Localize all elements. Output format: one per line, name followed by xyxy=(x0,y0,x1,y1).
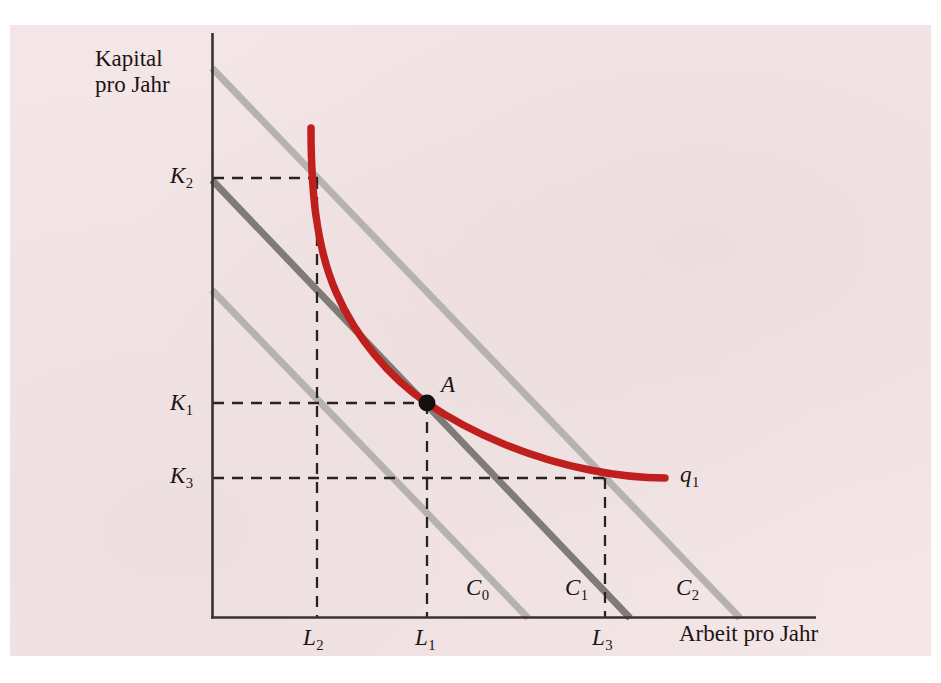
isocost-label-c2: C2 xyxy=(676,575,699,603)
isocost-label-c1: C1 xyxy=(565,575,588,603)
x-tick-label-l1: L1 xyxy=(415,625,436,653)
isocost-line-c2 xyxy=(212,68,740,618)
isoquant-curve-q1 xyxy=(311,128,665,478)
isocost-line-c0 xyxy=(212,290,528,618)
y-axis-title-line2: pro Jahr xyxy=(95,72,170,98)
y-tick-label-k2: K2 xyxy=(170,163,193,191)
isoquant-label-q1: q1 xyxy=(680,462,699,490)
y-tick-label-k3: K3 xyxy=(170,463,193,491)
optimum-point-a xyxy=(419,395,436,412)
point-label-a: A xyxy=(441,372,455,398)
isocost-label-c0: C0 xyxy=(466,575,489,603)
y-axis-title-line1: Kapital xyxy=(95,46,170,72)
figure-page: Kapital pro Jahr Arbeit pro Jahr K2 K1 K… xyxy=(0,0,941,683)
x-axis-title: Arbeit pro Jahr xyxy=(679,621,818,647)
y-axis-title: Kapital pro Jahr xyxy=(95,46,170,98)
x-tick-label-l3: L3 xyxy=(592,625,613,653)
y-tick-label-k1: K1 xyxy=(170,390,193,418)
x-tick-label-l2: L2 xyxy=(303,625,324,653)
